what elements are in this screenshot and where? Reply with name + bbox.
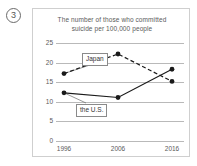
y-axis-tick-label: 15 — [46, 79, 53, 86]
chart-title-line-2: suicide per 100,000 people — [39, 24, 185, 33]
y-axis-tick-label: 25 — [46, 40, 53, 47]
data-point-marker — [170, 79, 175, 84]
data-point-marker — [170, 67, 175, 72]
x-axis-tick-label: 1996 — [57, 146, 71, 153]
y-axis-tick-label: 0 — [49, 138, 53, 145]
y-axis-tick-label: 20 — [46, 59, 53, 66]
question-number: 3 — [6, 8, 21, 23]
chart-frame: The number of those who committed suicid… — [32, 8, 190, 157]
x-axis-tick-label: 2006 — [111, 146, 125, 153]
data-point-marker — [62, 90, 67, 95]
data-point-marker — [62, 71, 67, 76]
data-point-marker — [116, 52, 121, 57]
annotation-label-the-us: the U.S. — [76, 104, 107, 117]
x-axis-tick-label: 2016 — [165, 146, 179, 153]
chart-title-line-1: The number of those who committed — [39, 15, 185, 24]
y-axis-tick-label: 5 — [49, 118, 53, 125]
chart-title: The number of those who committed suicid… — [39, 15, 185, 33]
gridline — [56, 141, 184, 142]
data-point-marker — [116, 95, 121, 100]
y-axis-tick-label: 10 — [46, 99, 53, 106]
series-lines — [56, 43, 184, 141]
annotation-label-japan: Japan — [82, 53, 108, 66]
plot-area: 0510152025 199620062016 Japan the U.S. — [56, 43, 184, 141]
